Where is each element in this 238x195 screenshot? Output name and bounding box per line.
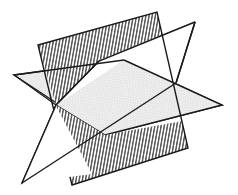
intersecting-planes-figure [0,0,238,195]
stippled-plane-front-group [14,60,222,135]
diagram-canvas [0,0,238,195]
